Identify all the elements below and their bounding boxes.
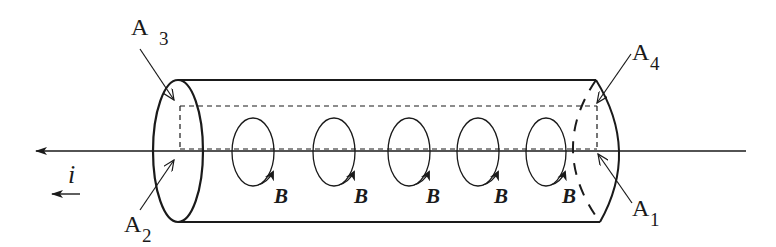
svg-text:3: 3 [159, 28, 169, 49]
label-a4: A 4 [632, 39, 660, 74]
field-label-b: B [425, 184, 440, 208]
current-label: i [68, 160, 75, 189]
label-a3: A 3 [131, 14, 169, 49]
pointer-a1 [598, 154, 632, 203]
field-label-b: B [273, 184, 288, 208]
pointer-a4 [597, 54, 631, 103]
svg-text:A: A [632, 39, 650, 65]
svg-text:A: A [124, 211, 142, 237]
label-a2: A 2 [124, 211, 152, 246]
pointer-a3 [140, 49, 174, 100]
pointer-a2 [140, 160, 174, 210]
field-loops [232, 118, 566, 186]
field-label-b: B [561, 184, 576, 208]
field-loop [457, 118, 499, 186]
svg-text:A: A [131, 14, 149, 40]
svg-text:2: 2 [142, 225, 152, 246]
field-loop [388, 118, 430, 186]
label-a1: A 1 [632, 195, 660, 230]
field-label-b: B [493, 184, 508, 208]
svg-text:4: 4 [650, 53, 660, 74]
cylinder-diagram: B B B B B A 3 A 4 A 2 A 1 i [0, 0, 776, 247]
field-loop [526, 118, 566, 186]
diagram-canvas: B B B B B A 3 A 4 A 2 A 1 i [0, 0, 776, 247]
field-label-b: B [353, 184, 368, 208]
svg-text:1: 1 [650, 209, 660, 230]
svg-text:A: A [632, 195, 650, 221]
field-loop [232, 118, 274, 186]
field-loop [313, 118, 355, 186]
